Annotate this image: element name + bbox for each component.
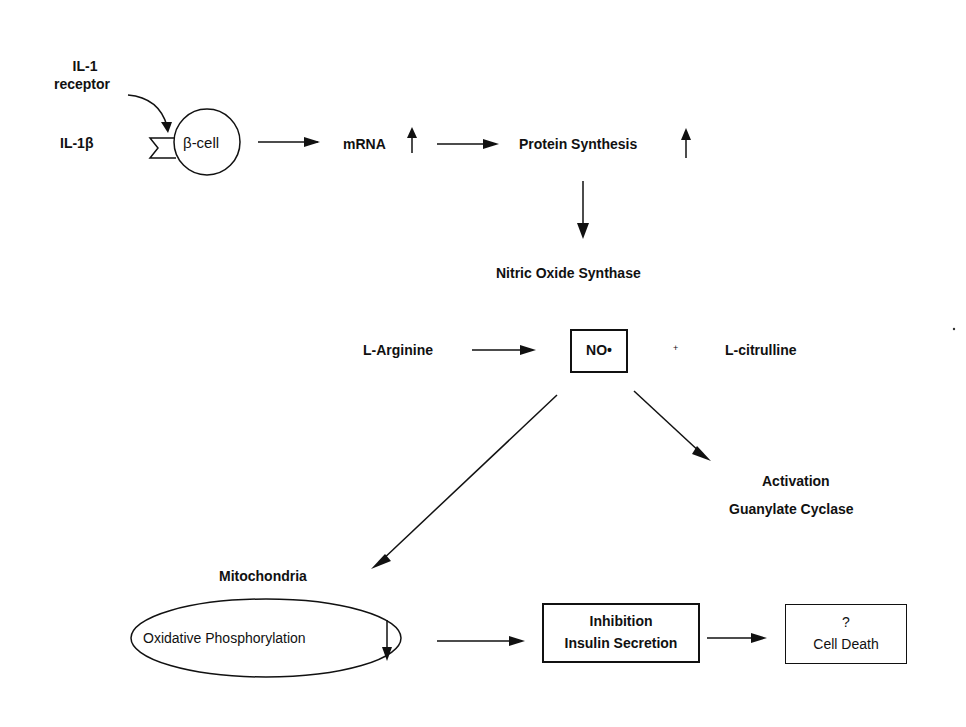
cell-death-box: ? Cell Death: [785, 604, 907, 664]
oxphos-label: Oxidative Phosphorylation: [143, 631, 306, 645]
nos-label: Nitric Oxide Synthase: [496, 266, 641, 280]
activation-label: Activation: [762, 474, 830, 488]
il1-receptor-line1: IL-1: [60, 58, 110, 76]
receptor-curved-arrow: [128, 95, 167, 126]
mitochondria-label: Mitochondria: [219, 569, 307, 583]
il1-receptor-line2: receptor: [54, 76, 110, 94]
il1b-label: IL-1β: [60, 136, 93, 150]
inhibition-insulin-box: Inhibition Insulin Secretion: [542, 603, 700, 663]
question-label: ?: [842, 612, 850, 634]
il1-receptor-label: IL-1 receptor: [60, 58, 110, 93]
mrna-label: mRNA: [343, 137, 386, 151]
receptor-shape: [150, 138, 176, 158]
inhibition-label: Inhibition: [590, 611, 653, 633]
cell-death-label: Cell Death: [813, 634, 878, 656]
no-box: NO•: [570, 329, 628, 373]
guanylate-cyclase-label: Guanylate Cyclase: [729, 502, 854, 516]
insulin-secretion-label: Insulin Secretion: [565, 633, 678, 655]
no-label: NO•: [586, 340, 612, 362]
protein-synthesis-label: Protein Synthesis: [519, 137, 637, 151]
beta-cell-label: β-cell: [183, 135, 219, 150]
plus-sign: +: [673, 344, 678, 353]
l-citrulline-label: L-citrulline: [725, 343, 797, 357]
l-arginine-label: L-Arginine: [363, 343, 433, 357]
